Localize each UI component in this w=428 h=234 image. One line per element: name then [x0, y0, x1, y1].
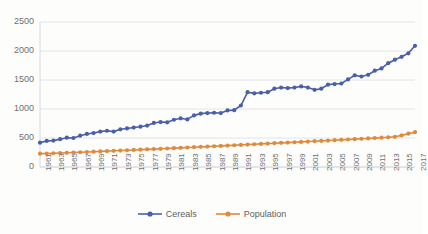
data-point	[413, 130, 417, 134]
data-point	[165, 120, 169, 124]
data-point	[312, 88, 316, 92]
y-axis-tick-label: 0	[0, 161, 34, 171]
legend-item-cereals[interactable]: Cereals	[137, 209, 197, 219]
x-axis-tick-label: 1981	[177, 153, 186, 171]
data-point	[232, 108, 236, 112]
data-point	[112, 130, 116, 134]
series-line-cereals	[40, 46, 415, 143]
data-point	[185, 117, 189, 121]
data-point	[91, 131, 95, 135]
y-axis-tick-label: 2000	[0, 45, 34, 55]
legend-label: Cereals	[166, 209, 197, 219]
data-point	[306, 139, 310, 143]
data-point	[205, 144, 209, 148]
x-axis-tick-label: 1973	[124, 153, 133, 171]
x-axis-tick-label: 2007	[352, 153, 361, 171]
data-point	[212, 144, 216, 148]
data-point	[353, 73, 357, 77]
data-point	[239, 103, 243, 107]
x-axis-tick-label: 1987	[218, 153, 227, 171]
data-point	[45, 139, 49, 143]
data-point	[192, 113, 196, 117]
y-axis-tick-label: 1000	[0, 103, 34, 113]
legend-item-population[interactable]: Population	[215, 209, 287, 219]
data-point	[118, 148, 122, 152]
data-point	[138, 148, 142, 152]
data-point	[125, 148, 129, 152]
data-point	[219, 111, 223, 115]
data-point	[51, 139, 55, 143]
data-point	[373, 136, 377, 140]
data-point	[292, 85, 296, 89]
data-point	[245, 90, 249, 94]
data-point	[179, 146, 183, 150]
x-axis-tick-label: 2003	[325, 153, 334, 171]
data-point	[306, 85, 310, 89]
data-point	[145, 123, 149, 127]
data-point	[333, 82, 337, 86]
x-axis-tick-label: 1961	[44, 153, 53, 171]
data-point	[272, 141, 276, 145]
data-point	[105, 129, 109, 133]
data-point	[98, 130, 102, 134]
data-point	[406, 51, 410, 55]
data-point	[292, 140, 296, 144]
data-point	[172, 146, 176, 150]
data-point	[373, 69, 377, 73]
data-point	[346, 137, 350, 141]
x-axis-tick-label: 2011	[378, 154, 387, 171]
data-point	[252, 91, 256, 95]
data-point	[326, 83, 330, 87]
x-axis-tick-label: 1983	[191, 153, 200, 171]
x-axis-tick-label: 2017	[419, 153, 428, 171]
data-point	[413, 44, 417, 48]
data-point	[312, 139, 316, 143]
data-point	[359, 137, 363, 141]
data-point	[299, 84, 303, 88]
data-point	[245, 142, 249, 146]
series-line-population	[40, 132, 415, 153]
chart-legend: CerealsPopulation	[0, 209, 423, 219]
data-point	[225, 108, 229, 112]
x-axis-tick-label: 1971	[110, 153, 119, 171]
data-point	[65, 136, 69, 140]
data-point	[286, 86, 290, 90]
data-point	[339, 81, 343, 85]
legend-label: Population	[244, 209, 287, 219]
data-point	[326, 138, 330, 142]
data-point	[299, 140, 303, 144]
data-point	[279, 85, 283, 89]
x-axis-tick-label: 1995	[271, 153, 280, 171]
data-point	[138, 125, 142, 129]
data-point	[212, 111, 216, 115]
data-point	[346, 77, 350, 81]
data-point	[71, 136, 75, 140]
data-point	[199, 145, 203, 149]
x-axis-tick-label: 2009	[365, 153, 374, 171]
data-point	[353, 137, 357, 141]
x-axis-tick-label: 1997	[285, 153, 294, 171]
data-point	[172, 118, 176, 122]
data-point	[78, 134, 82, 138]
data-point	[239, 143, 243, 147]
data-point	[192, 145, 196, 149]
data-point	[386, 135, 390, 139]
x-axis-tick-label: 2013	[392, 153, 401, 171]
y-axis-tick-label: 1500	[0, 74, 34, 84]
x-axis-tick-label: 1979	[164, 153, 173, 171]
data-point	[339, 138, 343, 142]
data-point	[132, 125, 136, 129]
x-axis-tick-label: 2015	[405, 153, 414, 171]
data-point	[85, 132, 89, 136]
data-point	[359, 74, 363, 78]
x-axis-tick-label: 1975	[137, 153, 146, 171]
x-axis-tick-label: 2001	[311, 153, 320, 171]
data-point	[386, 61, 390, 65]
data-point	[266, 141, 270, 145]
data-point	[152, 147, 156, 151]
legend-marker-icon	[215, 209, 241, 219]
data-point	[179, 116, 183, 120]
data-point	[158, 120, 162, 124]
data-point	[125, 126, 129, 130]
